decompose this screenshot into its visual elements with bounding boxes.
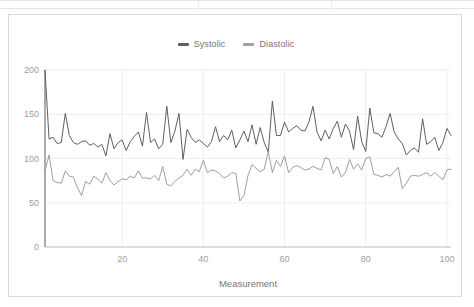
x-axis-tick-labels: 20406080100 xyxy=(117,254,454,264)
sheet-gridline-bottom xyxy=(0,8,474,9)
x-tick-label: 100 xyxy=(439,254,454,264)
y-axis-tick-labels: 050100150200 xyxy=(24,65,39,252)
y-tick-label: 150 xyxy=(24,109,39,119)
x-tick-label: 40 xyxy=(198,254,208,264)
x-tick-label: 20 xyxy=(117,254,127,264)
screenshot-root: Systolic Diastolic 050100150200 20406080… xyxy=(0,0,474,307)
x-tick-label: 80 xyxy=(361,254,371,264)
sheet-column-divider xyxy=(198,0,199,11)
line-chart-svg: 050100150200 20406080100 Measurement xyxy=(9,15,463,298)
sheet-gridline-top xyxy=(0,0,474,1)
gridlines xyxy=(45,70,451,247)
sheet-column-divider xyxy=(331,0,332,11)
x-tick-label: 60 xyxy=(280,254,290,264)
y-tick-label: 50 xyxy=(29,198,39,208)
spreadsheet-row-strip xyxy=(0,0,474,11)
y-tick-label: 200 xyxy=(24,65,39,75)
plot-area: 050100150200 20406080100 Measurement xyxy=(9,15,463,298)
y-tick-label: 0 xyxy=(34,242,39,252)
y-tick-label: 100 xyxy=(24,154,39,164)
data-series xyxy=(45,70,451,201)
x-axis-title: Measurement xyxy=(219,278,277,289)
x-axis-title-label: Measurement xyxy=(219,278,277,289)
chart-card[interactable]: Systolic Diastolic 050100150200 20406080… xyxy=(8,14,462,297)
